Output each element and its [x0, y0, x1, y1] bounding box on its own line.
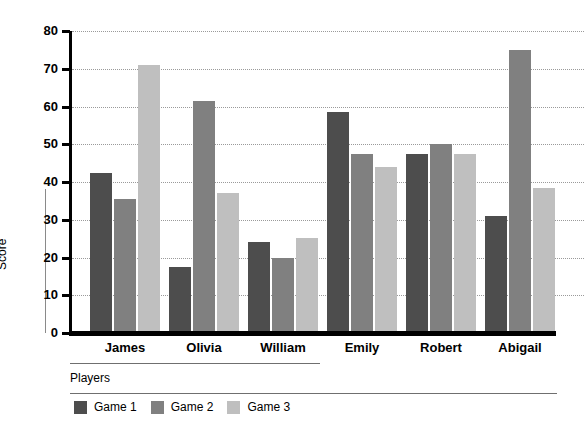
- legend-item[interactable]: Game 2: [151, 401, 214, 414]
- bar: [90, 173, 112, 333]
- y-axis-tick: [62, 181, 70, 184]
- x-axis-category-label: Abigail: [470, 340, 570, 355]
- bar: [217, 193, 239, 333]
- bar: [509, 50, 531, 333]
- bar: [485, 216, 507, 333]
- bar: [430, 144, 452, 333]
- y-axis-tick: [62, 30, 70, 33]
- bar: [375, 167, 397, 333]
- legend-item[interactable]: Game 1: [74, 401, 137, 414]
- y-axis-tick-label: 60: [28, 100, 58, 113]
- y-axis-tick-label: 70: [28, 62, 58, 75]
- legend-item[interactable]: Game 3: [227, 401, 290, 414]
- bar: [193, 101, 215, 333]
- bar: [327, 112, 349, 333]
- bar: [169, 267, 191, 333]
- legend: Game 1Game 2Game 3: [74, 401, 290, 414]
- x-axis-rule: [70, 363, 320, 364]
- legend-label: Game 3: [247, 401, 290, 414]
- bar: [406, 154, 428, 333]
- plot-area: [72, 31, 584, 333]
- y-axis-tick-label: 50: [28, 137, 58, 150]
- legend-swatch-icon: [74, 401, 87, 414]
- bar: [138, 65, 160, 333]
- y-axis-tick: [62, 68, 70, 71]
- legend-label: Game 2: [171, 401, 214, 414]
- x-axis-title: Players: [70, 371, 110, 385]
- y-axis-tick: [62, 294, 70, 297]
- y-axis-tick: [62, 143, 70, 146]
- x-axis-baseline: [69, 331, 556, 336]
- y-axis-tick-label: 10: [28, 288, 58, 301]
- y-axis-title: Score: [0, 210, 8, 270]
- bar: [114, 199, 136, 333]
- bar: [454, 154, 476, 333]
- y-axis-tick-label: 0: [28, 326, 58, 339]
- y-axis-tick: [62, 257, 70, 260]
- legend-swatch-icon: [151, 401, 164, 414]
- y-axis-tick-label: 80: [28, 24, 58, 37]
- bar: [351, 154, 373, 333]
- y-axis-tick-label: 30: [28, 213, 58, 226]
- y-axis-tick-label: 20: [28, 251, 58, 264]
- legend-rule: [70, 393, 557, 394]
- y-axis-tick-label: 40: [28, 175, 58, 188]
- bar: [533, 188, 555, 333]
- bar: [296, 238, 318, 334]
- y-axis-tick: [62, 219, 70, 222]
- gridline: [72, 31, 584, 32]
- y-axis-tick: [62, 106, 70, 109]
- bar: [272, 258, 294, 333]
- legend-swatch-icon: [227, 401, 240, 414]
- bar: [248, 242, 270, 333]
- legend-label: Game 1: [94, 401, 137, 414]
- bar-chart: Score 01020304050607080 JamesOliviaWilli…: [0, 0, 587, 440]
